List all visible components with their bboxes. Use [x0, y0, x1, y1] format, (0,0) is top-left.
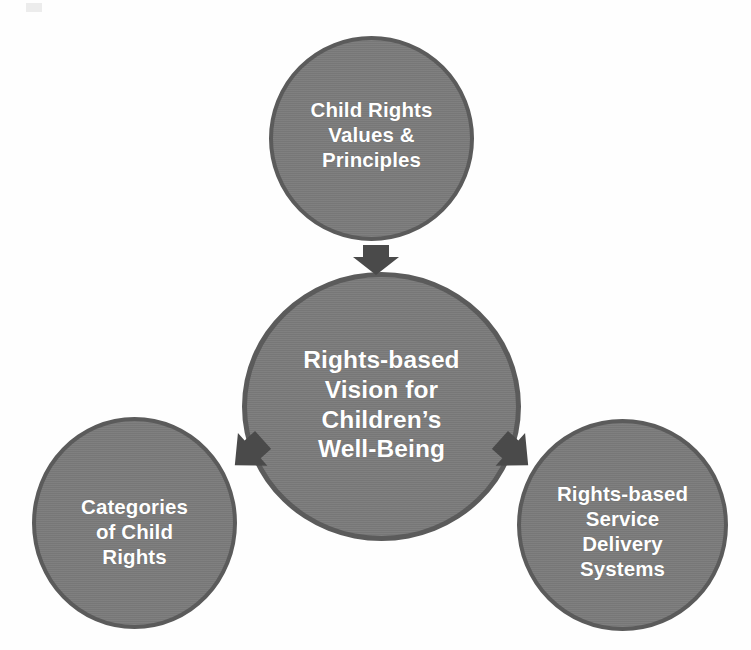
node-rights-based-service-delivery-systems[interactable]: Rights-basedServiceDeliverySystems [517, 419, 728, 631]
node-categories-of-child-rights[interactable]: Categoriesof ChildRights [32, 417, 237, 629]
node-rights-based-vision-for-childrens-well-being[interactable]: Rights-basedVision forChildren’sWell-Bei… [242, 272, 521, 541]
scan-artifact [26, 3, 42, 12]
node-child-rights-values-and-principles[interactable]: Child RightsValues &Principles [269, 36, 474, 241]
node-right-label: Rights-basedServiceDeliverySystems [547, 481, 698, 581]
arrow-top-to-center-icon [349, 243, 403, 277]
diagram-canvas: Child RightsValues &Principles Rights-ba… [0, 0, 751, 650]
node-top-label: Child RightsValues &Principles [301, 97, 443, 172]
arrow-right-to-center-icon [492, 425, 548, 491]
node-center-label: Rights-basedVision forChildren’sWell-Bei… [293, 345, 469, 465]
arrow-left-to-center-icon [215, 425, 271, 491]
node-left-label: Categoriesof ChildRights [71, 494, 198, 569]
